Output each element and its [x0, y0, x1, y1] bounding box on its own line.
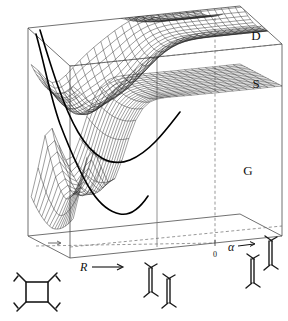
molecule-twisted-ethylene-3 — [246, 254, 260, 288]
surface-label-d: D — [251, 28, 260, 43]
surface-label-g: G — [243, 163, 252, 178]
molecule-twisted-ethylene-1 — [144, 263, 158, 297]
molecule-twisted-ethylene-2 — [162, 274, 176, 308]
alpha-axis-arrow — [238, 242, 255, 247]
state-labels: D S G — [243, 28, 260, 178]
molecule-square-cyclobutadiene — [14, 273, 60, 311]
r-axis-arrow — [92, 264, 123, 270]
molecule-twisted-ethylene-4 — [264, 236, 278, 270]
alpha-axis-label: α — [228, 240, 235, 254]
surface-label-s: S — [252, 76, 259, 91]
r-axis-label: R — [79, 260, 88, 274]
alpha-zero-tick-label: 0 — [213, 250, 217, 259]
small-arrow-left — [48, 241, 61, 245]
r-axis-label-group: R — [79, 260, 123, 274]
pes-figure: D S G R α 0 — [0, 0, 288, 321]
figure-root: D S G R α 0 — [0, 0, 288, 321]
